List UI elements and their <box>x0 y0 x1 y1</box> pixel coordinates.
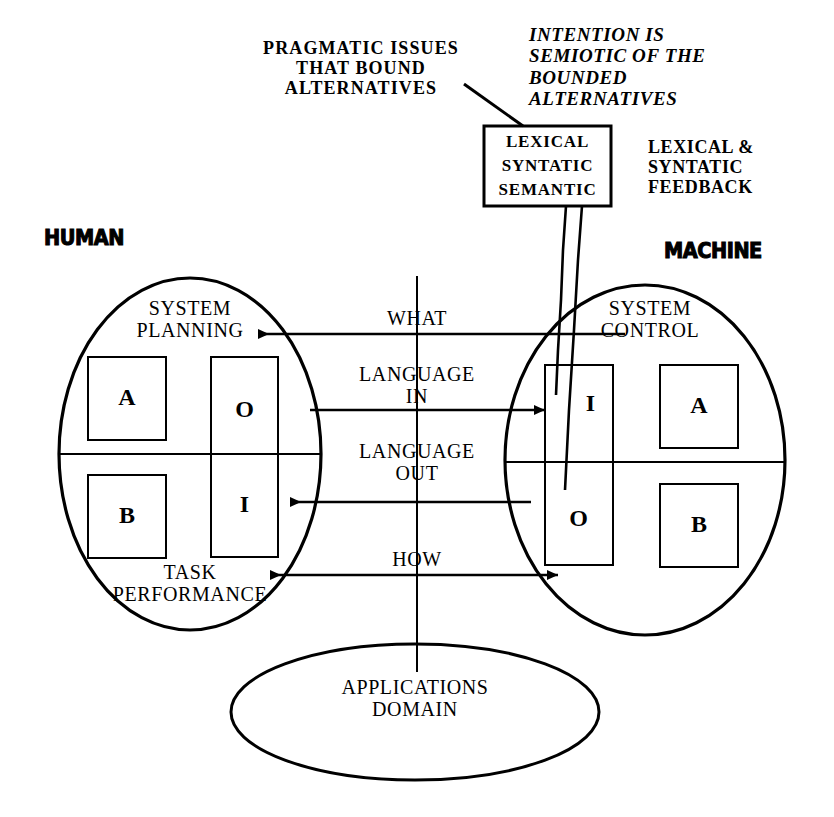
human-box-oi-shape <box>211 357 278 557</box>
pragmatic-leader-line <box>464 84 523 126</box>
annotation-lexical-syntatic-feedback: LEXICAL & SYNTATIC FEEDBACK <box>648 137 828 197</box>
annotation-intention-semiotic: INTENTION IS SEMIOTIC OF THE BOUNDED ALT… <box>529 24 829 109</box>
label-system-planning: SYSTEM PLANNING <box>70 297 310 342</box>
human-box-a-letter: A <box>88 384 166 411</box>
diagram-canvas: PRAGMATIC ISSUES THAT BOUND ALTERNATIVES… <box>0 0 834 817</box>
label-language-out: LANGUAGE OUT <box>317 440 517 485</box>
lexical-box-line-3: SEMANTIC <box>484 180 611 199</box>
label-machine: MACHINE <box>664 240 811 264</box>
label-language-in: LANGUAGE IN <box>317 363 517 408</box>
label-how: HOW <box>317 548 517 570</box>
machine-box-a-letter: A <box>660 392 738 419</box>
semiotic-trace-line-2 <box>565 206 582 490</box>
label-human: HUMAN <box>44 227 173 251</box>
label-system-control: SYSTEM CONTROL <box>535 297 765 342</box>
lexical-box-line-1: LEXICAL <box>484 132 611 151</box>
machine-box-i-letter: I <box>557 390 624 417</box>
label-applications-domain: APPLICATIONS DOMAIN <box>255 676 575 721</box>
label-task-performance: TASK PERFORMANCE <box>60 561 320 606</box>
annotation-pragmatic-issues: PRAGMATIC ISSUES THAT BOUND ALTERNATIVES <box>250 38 472 98</box>
lexical-box-line-2: SYNTATIC <box>484 156 611 175</box>
machine-box-b-letter: B <box>660 511 738 538</box>
human-box-b-letter: B <box>88 502 166 529</box>
human-box-o-letter: O <box>211 396 278 423</box>
machine-box-o-letter: O <box>545 505 612 532</box>
label-what: WHAT <box>317 307 517 329</box>
human-box-i-letter: I <box>211 491 278 518</box>
